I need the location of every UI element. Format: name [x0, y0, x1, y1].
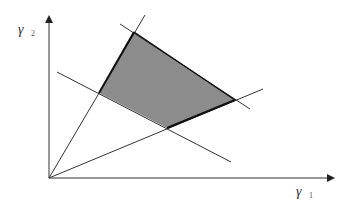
y-axis-subscript: 2 [31, 29, 35, 38]
y-axis-label: γ [18, 22, 24, 37]
diagram-canvas: γ 2 γ 1 [0, 0, 353, 207]
x-axis-subscript: 1 [309, 191, 313, 200]
shaded-region [99, 32, 235, 128]
x-axis-label: γ [296, 184, 302, 199]
